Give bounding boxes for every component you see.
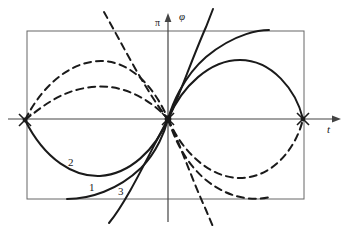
left-node-marker [19,114,31,126]
curve-1-mirror-left [25,61,168,120]
horizontal-axis [8,116,341,123]
curve-2-mirror-left [25,86,168,120]
curve-3-mirror-right [168,119,214,229]
curve-2 [25,60,303,176]
phi-axis-tick-label-pi: π [155,18,160,28]
phi-axis-label: φ [179,11,185,22]
curve-label-1: 1 [89,182,95,193]
curve-label-2: 2 [68,157,74,168]
plot-canvas [0,0,344,230]
t-axis-label: t [327,124,330,135]
curve-3-mirror-left [104,12,168,119]
curve-1-mirror-right [168,119,270,199]
curve-label-3: 3 [118,186,124,197]
phase-portrait-figure: π φ t 1 2 3 [0,0,344,230]
dashed-curve-group [25,12,303,229]
